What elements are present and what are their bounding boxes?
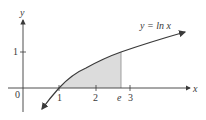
x-tick-label-3: 3 [128, 92, 133, 103]
origin-label: 0 [15, 89, 20, 100]
function-label: y = ln x [139, 20, 171, 31]
x-tick-label-2: 2 [93, 92, 98, 103]
y-axis-label: y [19, 7, 25, 18]
y-tick-label-1: 1 [13, 46, 18, 57]
x-axis-label: x [192, 83, 198, 94]
shaded-region [59, 52, 121, 88]
ln-plot: y x 0 1 2 e 3 1 y = ln x [0, 0, 206, 120]
x-tick-label-1: 1 [57, 92, 62, 103]
x-tick-label-e: e [117, 92, 122, 103]
